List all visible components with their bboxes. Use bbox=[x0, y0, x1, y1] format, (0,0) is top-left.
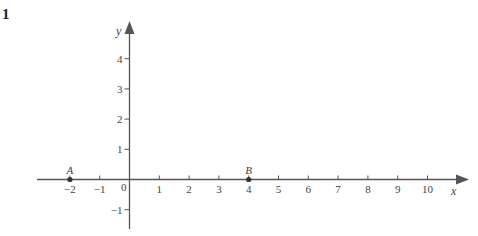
y-tick-label: 4 bbox=[117, 53, 123, 65]
x-tick-label: 6 bbox=[306, 183, 312, 195]
axes: xy0 bbox=[37, 21, 469, 229]
x-tick-label: 4 bbox=[246, 183, 252, 195]
x-axis-arrow-icon bbox=[456, 175, 469, 185]
y-tick-label: −1 bbox=[111, 204, 123, 216]
x-tick-label: −1 bbox=[94, 183, 106, 195]
x-tick-label: 3 bbox=[216, 183, 222, 195]
y-axis-label: y bbox=[115, 24, 122, 38]
x-tick-label: 10 bbox=[422, 183, 434, 195]
origin-label: 0 bbox=[121, 181, 127, 193]
point-marker-icon bbox=[67, 177, 72, 182]
coordinate-plane: xy0 −2−112345678910 −11234 AB bbox=[0, 0, 478, 236]
x-axis-label: x bbox=[450, 184, 457, 198]
y-axis-arrow-icon bbox=[125, 21, 135, 34]
y-tick-label: 1 bbox=[117, 143, 123, 155]
point-label: A bbox=[66, 164, 74, 176]
point-marker-icon bbox=[246, 177, 251, 182]
x-tick-label: 2 bbox=[186, 183, 192, 195]
x-tick-label: 9 bbox=[395, 183, 401, 195]
point-label: B bbox=[245, 164, 252, 176]
y-tick-label: 3 bbox=[117, 83, 123, 95]
point-b: B bbox=[245, 164, 252, 183]
x-tick-label: 7 bbox=[335, 183, 341, 195]
y-tick-label: 2 bbox=[117, 113, 123, 125]
x-tick-label: −2 bbox=[64, 183, 76, 195]
x-tick-label: 5 bbox=[276, 183, 282, 195]
x-tick-label: 8 bbox=[365, 183, 371, 195]
x-tick-label: 1 bbox=[157, 183, 163, 195]
